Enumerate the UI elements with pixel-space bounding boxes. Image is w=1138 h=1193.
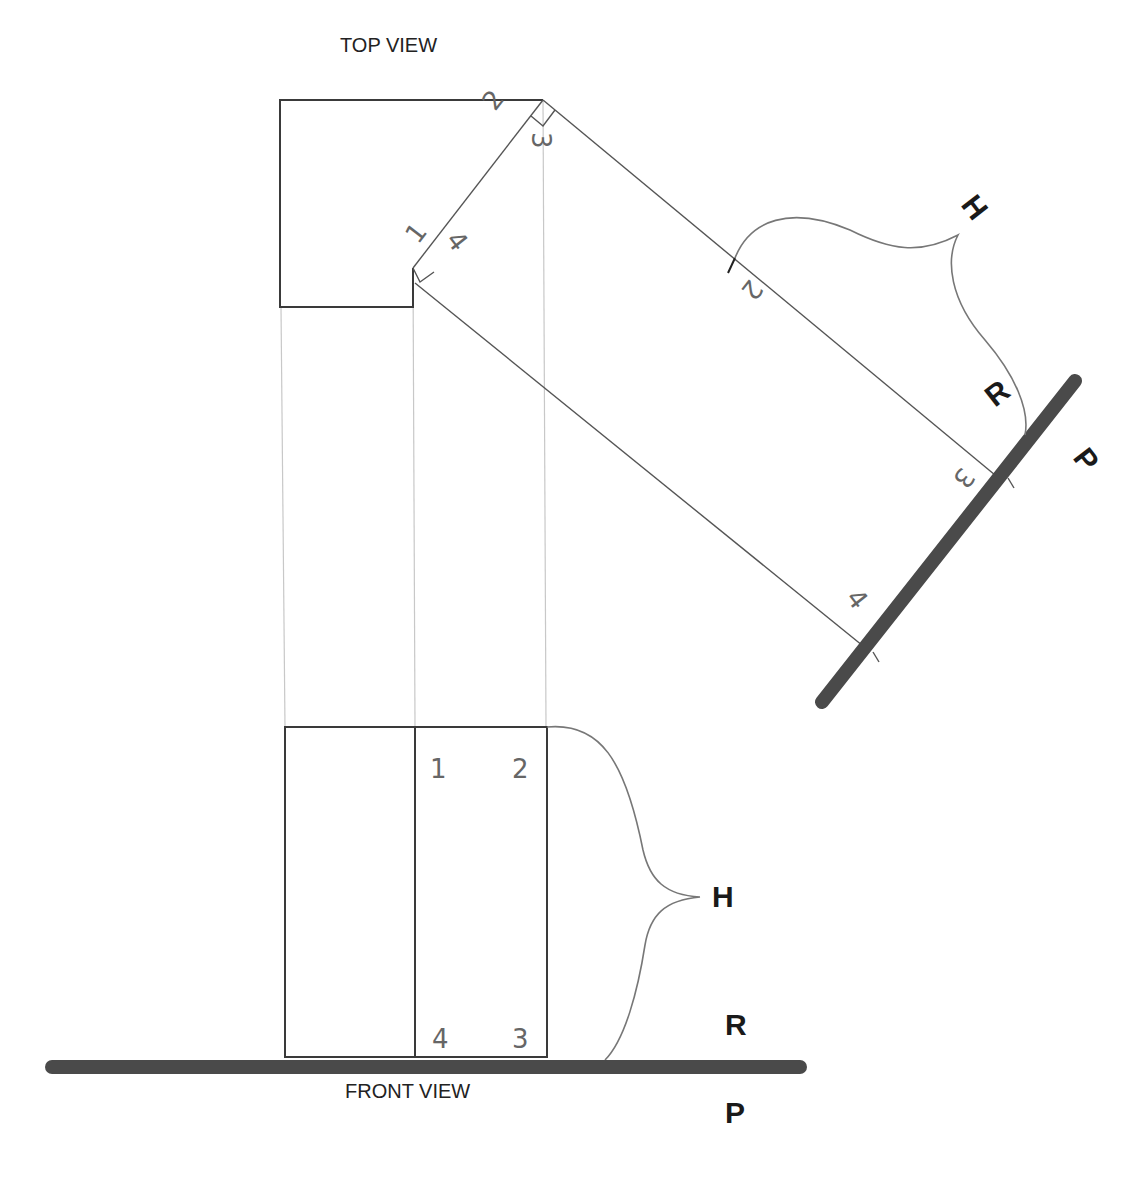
aux-point-3: 3: [947, 462, 981, 494]
aux-projector-2-3: [543, 100, 995, 475]
top-view-shape: [280, 100, 555, 307]
auxiliary-height-brace: [735, 218, 1026, 435]
front-point-1: 1: [430, 754, 447, 784]
front-view-title: FRONT VIEW: [345, 1080, 470, 1102]
auxiliary-reference-plane: [822, 381, 1075, 702]
right-angle-marker-bottom: [413, 268, 434, 282]
top-view-outline: [280, 100, 543, 307]
aux-label-h: H: [955, 188, 994, 225]
top-point-3: 3: [526, 132, 556, 149]
front-point-4: 4: [432, 1024, 449, 1054]
front-height-brace: [547, 727, 700, 1060]
auxiliary-view-diagram: TOP VIEW FRONT VIEW 2 3 1 4 2 3 4 H R P: [0, 0, 1138, 1193]
front-label-h: H: [712, 880, 734, 913]
top-view-title: TOP VIEW: [340, 34, 437, 56]
aux-label-p: P: [1067, 441, 1105, 477]
front-point-3: 3: [512, 1024, 529, 1054]
tick-mark-2: [728, 258, 735, 273]
top-point-2: 2: [476, 84, 510, 116]
front-point-2: 2: [512, 754, 529, 784]
tick-mark-4: [873, 652, 879, 662]
front-label-r: R: [725, 1008, 747, 1041]
aux-point-2: 2: [735, 274, 769, 306]
projector-left: [281, 307, 285, 727]
inclined-edge: [413, 100, 543, 268]
aux-label-r: R: [978, 373, 1016, 413]
aux-point-4: 4: [840, 583, 874, 615]
projector-middle: [413, 268, 415, 727]
front-view-shape: [285, 727, 547, 1057]
top-point-4: 4: [440, 225, 474, 257]
projection-lines: [281, 100, 546, 727]
tick-mark-3: [1008, 478, 1014, 488]
top-point-1: 1: [399, 217, 433, 249]
aux-projector-1-4: [415, 283, 868, 650]
front-label-p: P: [725, 1096, 745, 1129]
projector-right: [543, 100, 546, 727]
